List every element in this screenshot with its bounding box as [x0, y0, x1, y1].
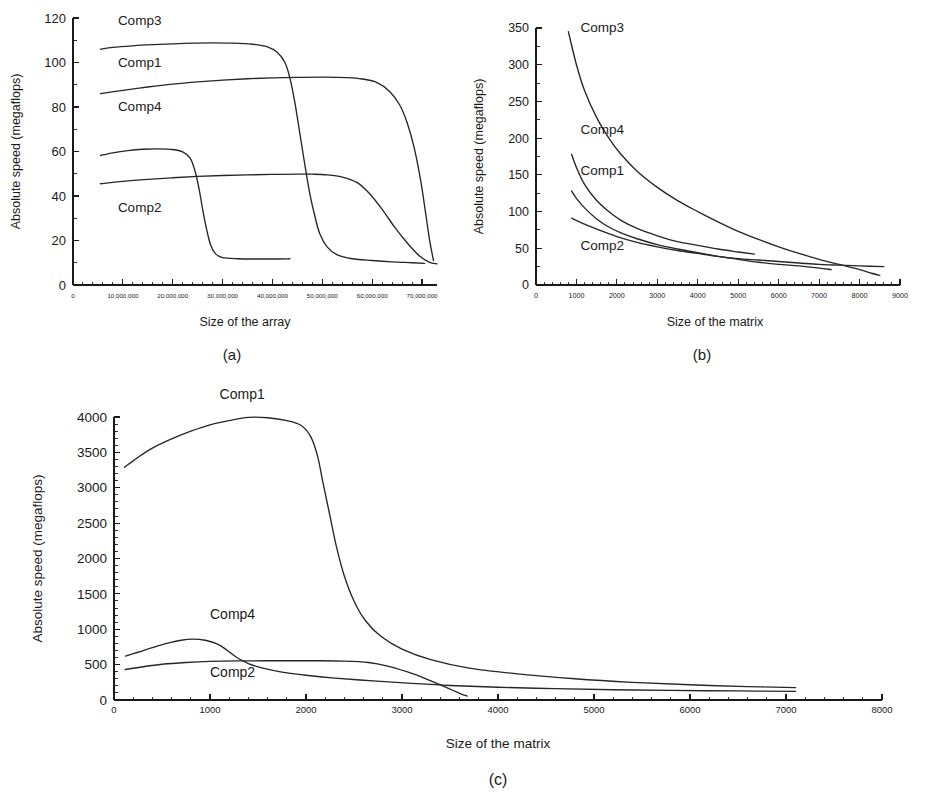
x-tick-label: 5000: [730, 291, 746, 300]
panel-caption: (a): [223, 346, 241, 363]
y-axis-title: Absolute speed (megaflops): [472, 79, 486, 235]
y-tick-label: 1500: [77, 587, 107, 602]
y-tick-label: 100: [44, 55, 66, 70]
x-tick-label: 70,000,000: [407, 292, 439, 299]
series-curve-comp1: [125, 417, 796, 688]
y-tick-label: 100: [508, 205, 529, 219]
y-tick-label: 250: [508, 95, 529, 109]
x-tick-label: 10,000,000: [107, 292, 139, 299]
x-axis-title: Size of the matrix: [667, 315, 764, 329]
series-curve-comp2: [125, 661, 467, 696]
x-tick-label: 3000: [391, 704, 412, 715]
series-label-comp3: Comp3: [118, 13, 162, 28]
x-tick-label: 2000: [295, 704, 316, 715]
x-tick-label: 4000: [690, 291, 706, 300]
series-label-comp2: Comp2: [210, 664, 255, 680]
y-tick-label: 200: [508, 132, 529, 146]
x-tick-label: 1000: [199, 704, 220, 715]
x-tick-label: 40,000,000: [257, 292, 289, 299]
series-label-comp4: Comp4: [580, 122, 624, 137]
chart-a-svg: 010,000,00020,000,00030,000,00040,000,00…: [0, 0, 465, 370]
y-tick-label: 300: [508, 58, 529, 72]
x-tick-label: 1000: [568, 291, 584, 300]
x-tick-label: 7000: [775, 704, 796, 715]
y-tick-label: 1000: [77, 622, 107, 637]
y-tick-label: 2000: [77, 551, 107, 566]
y-tick-label: 0: [59, 278, 66, 293]
x-tick-label: 6000: [771, 291, 787, 300]
y-tick-label: 50: [515, 242, 529, 256]
series-label-comp1: Comp1: [580, 163, 624, 178]
y-axis-title: Absolute speed (megaflops): [30, 474, 45, 642]
series-label-comp4: Comp4: [118, 99, 162, 114]
chart-panel-a: 010,000,00020,000,00030,000,00040,000,00…: [0, 0, 465, 370]
x-tick-label: 30,000,000: [207, 292, 239, 299]
x-tick-label: 5000: [583, 704, 604, 715]
figure-three-performance-charts: 010,000,00020,000,00030,000,00040,000,00…: [0, 0, 930, 799]
y-tick-label: 20: [52, 233, 66, 248]
x-tick-label: 6000: [679, 704, 700, 715]
x-axis-title: Size of the array: [199, 315, 291, 329]
series-label-comp2: Comp2: [580, 238, 624, 253]
y-tick-label: 120: [44, 11, 66, 26]
panel-caption: (c): [489, 771, 508, 788]
y-tick-label: 80: [52, 100, 66, 115]
x-tick-label: 60,000,000: [357, 292, 389, 299]
x-tick-label: 9000: [892, 291, 908, 300]
y-tick-label: 2500: [77, 516, 107, 531]
chart-b-svg: 0100020003000400050006000700080009000050…: [465, 0, 930, 370]
x-tick-label: 50,000,000: [307, 292, 339, 299]
x-tick-label: 0: [71, 292, 75, 299]
y-tick-label: 60: [52, 144, 66, 159]
series-label-comp3: Comp3: [580, 20, 624, 35]
series-label-comp1: Comp1: [220, 386, 265, 402]
y-tick-label: 0: [522, 278, 529, 292]
series-curve-comp1: [572, 191, 832, 270]
panel-caption: (b): [693, 346, 711, 363]
y-axis-title: Absolute speed (megaflops): [9, 74, 23, 230]
x-tick-label: 8000: [871, 704, 892, 715]
x-tick-label: 20,000,000: [157, 292, 189, 299]
series-label-comp4: Comp4: [210, 606, 255, 622]
x-tick-label: 4000: [487, 704, 508, 715]
y-tick-label: 500: [84, 657, 107, 672]
x-tick-label: 7000: [811, 291, 827, 300]
x-tick-label: 0: [111, 704, 116, 715]
x-axis-title: Size of the matrix: [446, 736, 551, 751]
x-tick-label: 2000: [609, 291, 625, 300]
series-label-comp1: Comp1: [118, 55, 162, 70]
chart-panel-c: 0100020003000400050006000700080000500100…: [0, 370, 930, 799]
x-tick-label: 0: [534, 291, 538, 300]
y-tick-label: 4000: [77, 410, 107, 425]
y-tick-label: 350: [508, 21, 529, 35]
y-tick-label: 3500: [77, 445, 107, 460]
y-tick-label: 150: [508, 168, 529, 182]
x-tick-label: 3000: [649, 291, 665, 300]
x-tick-label: 8000: [852, 291, 868, 300]
y-tick-label: 3000: [77, 480, 107, 495]
series-label-comp2: Comp2: [118, 200, 162, 215]
series-curve-comp3: [100, 43, 424, 264]
chart-c-svg: 0100020003000400050006000700080000500100…: [0, 370, 930, 799]
y-tick-label: 0: [99, 693, 107, 708]
series-curve-comp2: [100, 174, 437, 264]
chart-panel-b: 0100020003000400050006000700080009000050…: [465, 0, 930, 370]
y-tick-label: 40: [52, 189, 66, 204]
